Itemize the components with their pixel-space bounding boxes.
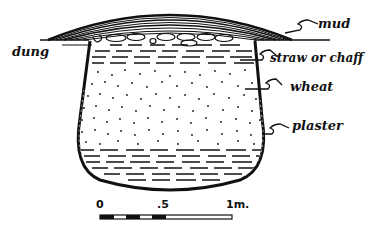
label-plaster: plaster: [292, 118, 344, 133]
straw-layer: [92, 45, 254, 63]
scale-tick-half: .5: [157, 198, 169, 211]
mud-dome: [48, 15, 292, 40]
scale-tick-1m: 1m.: [226, 198, 249, 211]
label-wheat: wheat: [290, 79, 333, 94]
storage-pit-diagram: mud dung straw or chaff wheat plaster 0 …: [0, 0, 382, 227]
label-mud: mud: [318, 16, 350, 31]
wheat-layer: [81, 69, 261, 145]
bottom-straw-layer: [80, 150, 266, 180]
pit-fill: [80, 45, 266, 180]
label-dung: dung: [12, 44, 49, 59]
label-straw: straw or chaff: [270, 51, 365, 65]
dung-layer: [93, 34, 233, 47]
scale-bar: 0 .5 1m.: [96, 198, 249, 219]
scale-tick-0: 0: [96, 198, 104, 211]
